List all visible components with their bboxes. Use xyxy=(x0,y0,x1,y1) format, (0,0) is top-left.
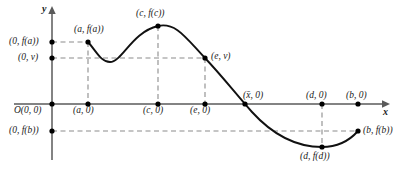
label-zero-v: (0, v) xyxy=(18,53,38,63)
point-d-fd xyxy=(319,144,324,149)
point-d-0 xyxy=(319,101,324,106)
x-axis-label: x xyxy=(383,107,388,117)
label-e-0: (e, 0) xyxy=(190,106,210,116)
y-axis-label: y xyxy=(42,4,46,14)
point-a-fa xyxy=(85,39,90,44)
point-xbar-0 xyxy=(242,101,247,106)
y-axis xyxy=(48,6,55,160)
vertical-dashed-lines xyxy=(88,26,322,147)
point-0-fa xyxy=(49,39,54,44)
function-curve xyxy=(88,25,358,147)
label-d-0: (d, 0) xyxy=(306,91,327,101)
point-b-0 xyxy=(355,101,360,106)
label-a-fa: (a, f(a)) xyxy=(74,25,104,35)
label-a-0: (a, 0) xyxy=(73,106,94,116)
label-zero-fb: (0, f(b)) xyxy=(9,126,39,136)
label-zero-fa: (0, f(a)) xyxy=(9,37,39,47)
label-c-0: (c, 0) xyxy=(143,106,163,116)
point-0-fb xyxy=(49,128,54,133)
label-origin: O(0, 0) xyxy=(14,106,41,116)
point-e-v xyxy=(202,55,207,60)
point-c-fc xyxy=(155,23,160,28)
label-b-fb: (b, f(b)) xyxy=(363,126,393,136)
label-d-fd: (d, f(d)) xyxy=(300,152,330,162)
graph-canvas xyxy=(0,0,395,172)
label-xbar-0: (x̄, 0) xyxy=(243,91,263,101)
label-b-0: (b, 0) xyxy=(346,91,367,101)
math-diagram: y x (0, f(a)) (0, v) (0, f(b)) O(0, 0) (… xyxy=(0,0,395,172)
point-0-v xyxy=(49,55,54,60)
label-c-fc: (c, f(c)) xyxy=(136,9,164,19)
point-b-fb xyxy=(355,128,360,133)
label-e-v: (e, v) xyxy=(211,52,231,62)
point-origin xyxy=(49,101,54,106)
